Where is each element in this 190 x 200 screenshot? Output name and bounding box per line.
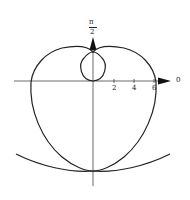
tick-label-4: 4 — [132, 85, 136, 92]
tick-label-2: 2 — [112, 85, 116, 92]
tick-label-6: 6 — [152, 85, 156, 92]
two-label: 2 — [90, 29, 94, 36]
zero-label: 0 — [176, 77, 180, 84]
vertical-axis-arrow-icon — [90, 37, 97, 50]
pi-label: π — [89, 19, 94, 26]
outer-loop-curve — [31, 46, 156, 171]
polar-axis-arrow-icon — [158, 78, 171, 85]
polar-plot — [0, 0, 190, 200]
